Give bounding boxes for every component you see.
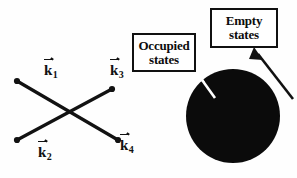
empty-arrow-head bbox=[249, 47, 263, 60]
scattering-lines bbox=[17, 81, 118, 140]
callout-occupied-line1: Occupied bbox=[138, 39, 189, 53]
callout-occupied-states: Occupied states bbox=[132, 33, 196, 72]
callout-empty-line2: states bbox=[229, 28, 259, 42]
callout-empty-states: Empty states bbox=[210, 8, 278, 48]
vector-label-k2: k2 bbox=[38, 144, 52, 162]
line-k2-k3 bbox=[17, 89, 112, 140]
fermi-sphere-disk bbox=[186, 69, 280, 163]
vector-subscript-k1: 1 bbox=[53, 69, 58, 80]
vector-arrow-k4: k bbox=[120, 137, 128, 154]
vector-label-k4: k4 bbox=[120, 137, 134, 155]
vector-arrow-k1: k bbox=[44, 62, 52, 79]
vector-arrow-k3: k bbox=[110, 62, 118, 79]
dot-k3 bbox=[109, 86, 115, 92]
vector-label-k1: k1 bbox=[44, 62, 58, 80]
callout-occupied-line2: states bbox=[149, 53, 179, 67]
scattering-fermi-sphere-figure: k1 k2 k3 k4 Occupied states Empty states bbox=[0, 0, 297, 178]
dot-k2 bbox=[14, 137, 20, 143]
vector-subscript-k2: 2 bbox=[47, 151, 52, 162]
vector-subscript-k3: 3 bbox=[119, 69, 124, 80]
callout-empty-line1: Empty bbox=[226, 14, 263, 28]
vector-label-k3: k3 bbox=[110, 62, 124, 80]
vector-arrow-k2: k bbox=[38, 144, 46, 161]
dot-k1 bbox=[14, 78, 20, 84]
vector-subscript-k4: 4 bbox=[129, 144, 134, 155]
